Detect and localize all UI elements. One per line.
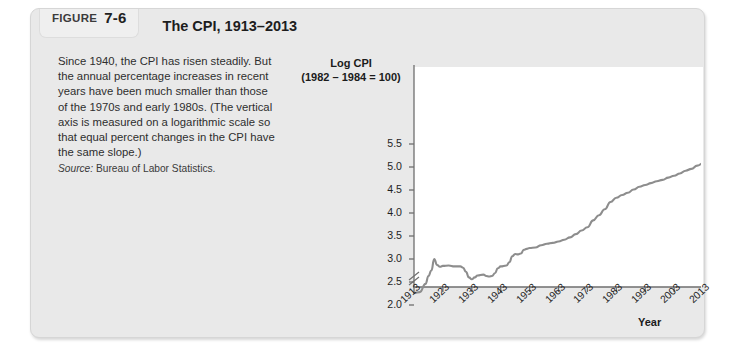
figure-title: The CPI, 1913–2013 [163, 18, 298, 34]
figure-number: 7-6 [104, 9, 126, 26]
cpi-line-series [414, 163, 701, 293]
figure-header: FIGURE 7-6 The CPI, 1913–2013 [39, 9, 297, 39]
x-axis-title: Year [638, 316, 661, 328]
figure-label-tab: FIGURE 7-6 [39, 9, 139, 38]
chart-tick-marks [409, 144, 701, 305]
y-tick-label: 2.5 [370, 275, 402, 287]
y-tick-label: 5.5 [370, 137, 402, 149]
chart-axes [414, 65, 701, 287]
figure-card: FIGURE 7-6 The CPI, 1913–2013 Since 1940… [30, 8, 705, 338]
figure-label-word: FIGURE [52, 12, 97, 24]
y-tick-label: 5.0 [370, 160, 402, 172]
caption-block: Since 1940, the CPI has risen steadily. … [58, 54, 280, 176]
y-tick-label: 3.5 [370, 229, 402, 241]
source-value: Bureau of Labor Statistics. [96, 163, 215, 174]
y-tick-label: 3.0 [370, 252, 402, 264]
source-label: Source: [58, 163, 93, 174]
y-tick-label: 2.0 [370, 298, 402, 310]
y-tick-label: 4.5 [370, 183, 402, 195]
caption-source: Source: Bureau of Labor Statistics. [58, 162, 280, 176]
y-tick-label: 4.0 [370, 206, 402, 218]
chart-region: Log CPI (1982 – 1984 = 100) 5.55.04.54.0… [256, 47, 701, 332]
caption-body: Since 1940, the CPI has risen steadily. … [58, 54, 280, 160]
